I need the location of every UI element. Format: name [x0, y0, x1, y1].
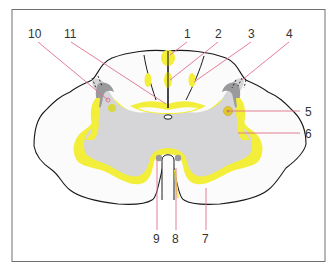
label-10: 10 — [28, 27, 42, 41]
label-4: 4 — [286, 27, 293, 41]
dorsal-column-spot-right — [189, 73, 196, 87]
left-dorsal-nucleus — [108, 104, 116, 112]
label-1: 1 — [184, 27, 191, 41]
label-9: 9 — [153, 232, 160, 246]
spinal-cord-diagram: 1 2 3 4 5 6 7 8 9 10 11 — [0, 0, 335, 272]
label-11: 11 — [64, 27, 77, 41]
label-2: 2 — [215, 27, 222, 41]
right-ventral-spot — [175, 155, 181, 161]
dorsal-column-spot-left — [145, 73, 152, 87]
anterior-median-fissure — [162, 155, 174, 200]
label-6: 6 — [305, 127, 312, 141]
label-7: 7 — [202, 232, 209, 246]
label-5: 5 — [305, 105, 312, 119]
central-canal — [164, 115, 172, 119]
label-8: 8 — [172, 232, 179, 246]
label-3: 3 — [248, 27, 255, 41]
